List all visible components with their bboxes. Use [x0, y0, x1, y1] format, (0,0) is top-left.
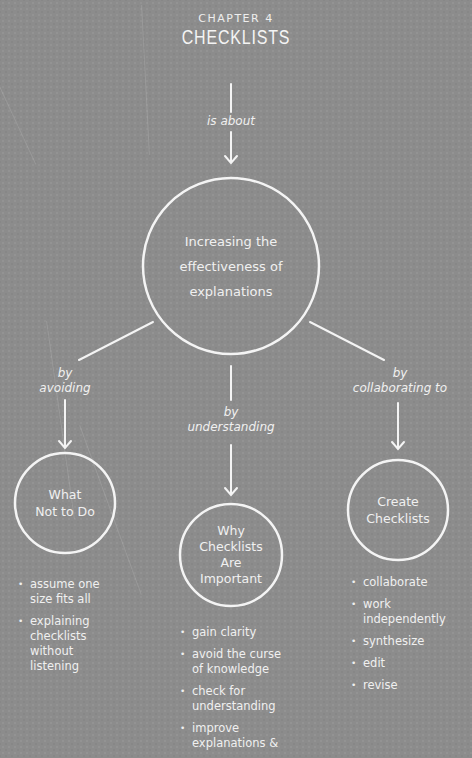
connector-by-understanding: by understanding [171, 405, 291, 435]
right-node-line: Create [377, 493, 419, 510]
middle-node-line: Checklists [199, 539, 262, 555]
chapter-label: CHAPTER 4 [0, 12, 472, 25]
bullet-item: revise [351, 678, 466, 693]
middle-node-line: Are [220, 555, 241, 571]
bullet-item: check for understanding [180, 684, 290, 714]
connector-label: is about [207, 114, 255, 128]
bullet-item: gain clarity [180, 625, 290, 640]
left-node-line: Not to Do [35, 503, 95, 520]
bullet-item: explaining checklists without listening [18, 614, 108, 674]
bullet-item: edit [351, 656, 466, 671]
center-node-line: explanations [189, 279, 272, 304]
connector-label: by [171, 405, 291, 420]
middle-node-line: Why [217, 523, 245, 539]
right-bullet-list: collaborate work independently synthesiz… [351, 575, 466, 700]
center-node: Increasing the effectiveness of explanat… [143, 178, 319, 354]
connector-is-about: is about [181, 114, 281, 129]
bullet-item: work independently [351, 597, 466, 627]
right-node-line: Checklists [366, 510, 429, 527]
connector-label: by [340, 366, 460, 381]
connector-by-collaborating: by collaborating to [340, 366, 460, 396]
bullet-item: synthesize [351, 634, 466, 649]
middle-bullet-list: gain clarity avoid the curse of knowledg… [180, 625, 290, 758]
bullet-item: collaborate [351, 575, 466, 590]
center-node-line: Increasing the [185, 229, 278, 254]
connector-label: collaborating to [340, 381, 460, 396]
connector-by-avoiding: by avoiding [15, 366, 115, 396]
middle-node: Why Checklists Are Important [180, 504, 282, 606]
center-node-line: effectiveness of [180, 254, 283, 279]
left-node: What Not to Do [15, 453, 115, 553]
bullet-item: avoid the curse of knowledge [180, 647, 290, 677]
bullet-item: improve explanations & [180, 721, 290, 751]
left-node-line: What [49, 486, 82, 503]
right-node: Create Checklists [348, 460, 448, 560]
chapter-title: CHECKLISTS [47, 26, 425, 49]
left-bullet-list: assume one size fits all explaining chec… [18, 577, 108, 681]
connector-label: understanding [171, 420, 291, 435]
connector-label: avoiding [15, 381, 115, 396]
bullet-item: assume one size fits all [18, 577, 108, 607]
connector-label: by [15, 366, 115, 381]
middle-node-line: Important [200, 571, 262, 587]
